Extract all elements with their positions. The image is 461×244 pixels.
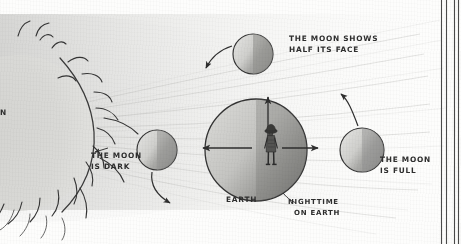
page-border-rules [442, 0, 459, 244]
moon-full-right [340, 128, 384, 172]
moon-dark-line2: IS DARK [91, 162, 130, 171]
diagram-canvas: N [0, 0, 461, 244]
moon-half-line2: HALF ITS FACE [289, 45, 359, 54]
moon-dark-left [137, 130, 177, 170]
earth-label: EARTH [226, 195, 257, 204]
nighttime-line2: ON EARTH [294, 209, 340, 217]
moon-full-line2: IS FULL [380, 166, 416, 175]
moon-full-line1: THE MOON [380, 155, 431, 164]
diagram-artwork: N [0, 0, 461, 244]
sun-label: N [0, 108, 7, 117]
moon-half-top [233, 34, 273, 74]
moon-dark-line1: THE MOON [91, 151, 142, 160]
earth-body [205, 99, 307, 201]
nighttime-line1: NIGHTTIME [288, 198, 339, 206]
moon-half-line1: THE MOON SHOWS [289, 34, 378, 43]
